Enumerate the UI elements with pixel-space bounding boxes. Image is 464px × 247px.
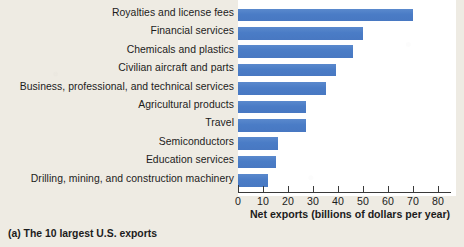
bar-row: Chemicals and plastics bbox=[0, 43, 464, 61]
bar-category-label: Travel bbox=[2, 117, 234, 128]
bar bbox=[238, 9, 413, 22]
bar-row: Business, professional, and technical se… bbox=[0, 80, 464, 98]
bar-category-label: Financial services bbox=[2, 25, 234, 36]
x-axis-tick bbox=[313, 186, 314, 193]
x-axis-tick bbox=[413, 186, 414, 193]
x-axis-tick bbox=[338, 186, 339, 193]
bar bbox=[238, 45, 353, 58]
x-axis-tick-label: 20 bbox=[282, 195, 294, 207]
bar-track bbox=[238, 61, 456, 79]
bar-row: Financial services bbox=[0, 24, 464, 42]
bar bbox=[238, 174, 268, 187]
x-axis-title: Net exports (billions of dollars per yea… bbox=[238, 208, 462, 220]
bar-row: Semiconductors bbox=[0, 135, 464, 153]
bar-row: Drilling, mining, and construction machi… bbox=[0, 172, 464, 190]
x-axis-tick-label: 60 bbox=[382, 195, 394, 207]
bar-category-label: Agricultural products bbox=[2, 99, 234, 110]
bar bbox=[238, 82, 326, 95]
bar-rows: Royalties and license feesFinancial serv… bbox=[0, 6, 464, 192]
bar-category-label: Business, professional, and technical se… bbox=[2, 81, 234, 92]
x-axis-tick bbox=[438, 186, 439, 193]
bar-track bbox=[238, 98, 456, 116]
x-axis-line bbox=[238, 192, 451, 193]
figure-caption: (a) The 10 largest U.S. exports bbox=[8, 228, 157, 239]
x-axis-tick-label: 70 bbox=[407, 195, 419, 207]
x-axis-tick-label: 30 bbox=[307, 195, 319, 207]
bar-row: Agricultural products bbox=[0, 98, 464, 116]
bar-track bbox=[238, 172, 456, 190]
x-axis-tick-label: 40 bbox=[332, 195, 344, 207]
x-axis-tick bbox=[288, 186, 289, 193]
bar-row: Travel bbox=[0, 116, 464, 134]
bar bbox=[238, 64, 336, 77]
bar-track bbox=[238, 43, 456, 61]
bar-category-label: Education services bbox=[2, 154, 234, 165]
x-axis-tick-label: 50 bbox=[357, 195, 369, 207]
bar-track bbox=[238, 135, 456, 153]
bar-category-label: Royalties and license fees bbox=[2, 7, 234, 18]
x-axis-tick bbox=[363, 186, 364, 193]
bar-row: Education services bbox=[0, 153, 464, 171]
bar-category-label: Drilling, mining, and construction machi… bbox=[2, 173, 234, 184]
bar bbox=[238, 137, 278, 150]
bar-track bbox=[238, 116, 456, 134]
bar-track bbox=[238, 24, 456, 42]
x-axis-tick bbox=[263, 186, 264, 193]
bar-category-label: Semiconductors bbox=[2, 136, 234, 147]
x-axis-tick bbox=[388, 186, 389, 193]
bar bbox=[238, 101, 306, 114]
x-axis-tick-label: 0 bbox=[235, 195, 241, 207]
bar-track bbox=[238, 6, 456, 24]
bar bbox=[238, 27, 363, 40]
x-axis-tick-label: 80 bbox=[432, 195, 444, 207]
x-axis-tick-label: 10 bbox=[257, 195, 269, 207]
bar-track bbox=[238, 153, 456, 171]
bar bbox=[238, 156, 276, 169]
bar-row: Royalties and license fees bbox=[0, 6, 464, 24]
bar-track bbox=[238, 80, 456, 98]
bar-row: Civilian aircraft and parts bbox=[0, 61, 464, 79]
bar-category-label: Chemicals and plastics bbox=[2, 44, 234, 55]
figure-panel: Royalties and license feesFinancial serv… bbox=[0, 0, 464, 247]
bar-category-label: Civilian aircraft and parts bbox=[2, 62, 234, 73]
bar bbox=[238, 119, 306, 132]
